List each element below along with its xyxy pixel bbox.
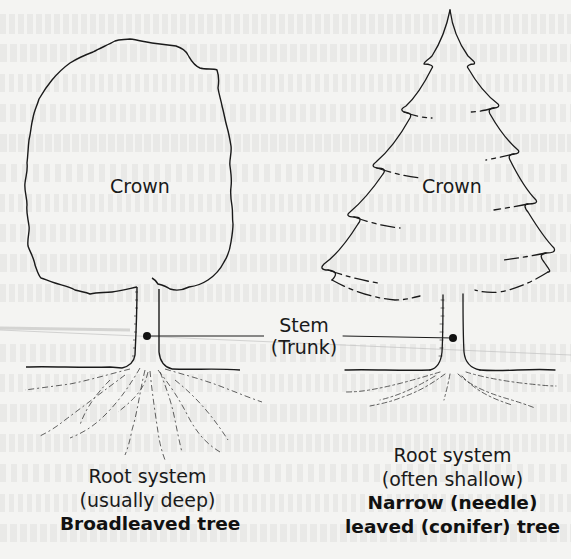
conifer-crown-label: Crown (422, 175, 482, 197)
broadleaved-root-label: Root system (60, 465, 235, 487)
conifer-root-label: Root system (345, 444, 560, 466)
broadleaved-ground-line (26, 367, 240, 370)
broadleaved-crown-label: Crown (110, 175, 170, 197)
stem-label-line1: Stem (264, 314, 344, 336)
conifer-tree-title-line1: Narrow (needle) (345, 492, 560, 514)
conifer-tree-title-line2: leaved (conifer) tree (345, 516, 560, 538)
conifer-shallow-roots (345, 372, 556, 408)
broadleaved-deep-roots (25, 368, 262, 460)
conifer-ground-line (345, 369, 555, 370)
broadleaved-root-depth: (usually deep) (60, 489, 235, 511)
conifer-crown-right-outline (450, 10, 555, 272)
stem-label: Stem (Trunk) (264, 314, 344, 358)
broadleaved-root-caption: Root system (usually deep) Broadleaved t… (60, 465, 235, 535)
conifer-root-caption: Root system (often shallow) Narrow (need… (345, 444, 560, 538)
conifer-root-depth: (often shallow) (345, 468, 560, 490)
broadleaved-tree-title: Broadleaved tree (60, 513, 235, 535)
stem-label-line2: (Trunk) (264, 336, 344, 358)
conifer-trunk-right (463, 294, 480, 370)
conifer-tier-marks (328, 108, 548, 300)
conifer-trunk-left (430, 295, 443, 370)
conifer-tree-illustration (322, 10, 556, 408)
broadleaved-crown-outline (25, 39, 233, 294)
conifer-crown-left-outline (322, 10, 450, 280)
stem-leader-line-right (343, 336, 453, 338)
broadleaved-trunk-right (159, 289, 172, 369)
broadleaved-tree-illustration (25, 39, 264, 460)
